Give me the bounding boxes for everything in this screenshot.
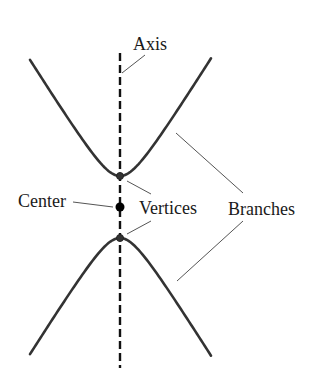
branches-leader-upper xyxy=(176,133,243,193)
vertices-label: Vertices xyxy=(139,198,197,218)
diagram-canvas: Axis Center Vertices Branches xyxy=(0,0,324,388)
vertices-leader-lower xyxy=(127,221,151,234)
axis-leader-line xyxy=(122,55,145,73)
upper-vertex-point xyxy=(117,173,124,180)
branches-leader-lower xyxy=(177,221,243,281)
branches-label: Branches xyxy=(228,199,295,219)
lower-vertex-point xyxy=(117,235,124,242)
axis-label: Axis xyxy=(133,34,167,54)
hyperbola-diagram: Axis Center Vertices Branches xyxy=(0,0,324,388)
center-leader-line xyxy=(73,202,113,207)
center-point xyxy=(116,203,125,212)
center-label: Center xyxy=(18,191,66,211)
vertices-leader-upper xyxy=(127,181,151,194)
